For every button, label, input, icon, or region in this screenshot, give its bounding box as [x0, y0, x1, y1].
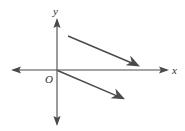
- upper-vector-shaft: [68, 36, 133, 64]
- origin-label: O: [45, 73, 53, 85]
- coordinate-plane-figure: y x O: [0, 0, 185, 131]
- figure-canvas: y x O: [0, 0, 185, 131]
- lower-vector-shaft: [58, 71, 119, 97]
- y-axis-label: y: [52, 5, 58, 17]
- x-axis-label: x: [171, 64, 177, 76]
